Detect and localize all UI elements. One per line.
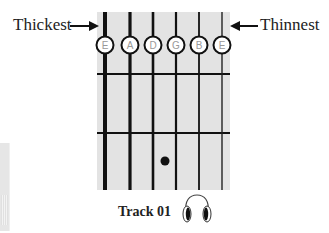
svg-text:D: D	[149, 40, 156, 51]
thinnest-arrow-icon	[230, 21, 258, 31]
track-label: Track 01	[118, 204, 171, 220]
fret-dot-marker	[161, 157, 170, 166]
svg-text:E: E	[102, 40, 109, 51]
note-circle-a: A	[122, 37, 139, 54]
note-circle-g: G	[168, 37, 185, 54]
svg-text:G: G	[172, 40, 180, 51]
svg-text:A: A	[127, 40, 134, 51]
note-circle-d: D	[145, 37, 162, 54]
note-circle-e-high: E	[214, 37, 231, 54]
note-circles: E A D G B E	[97, 37, 231, 54]
headphones-icon[interactable]	[183, 195, 211, 222]
note-circle-b: B	[191, 37, 208, 54]
thickest-arrow-icon	[70, 21, 99, 31]
note-circle-e-low: E	[97, 37, 114, 54]
fretboard-diagram: E A D G B E	[0, 0, 329, 233]
svg-text:B: B	[196, 40, 203, 51]
svg-text:E: E	[219, 40, 226, 51]
